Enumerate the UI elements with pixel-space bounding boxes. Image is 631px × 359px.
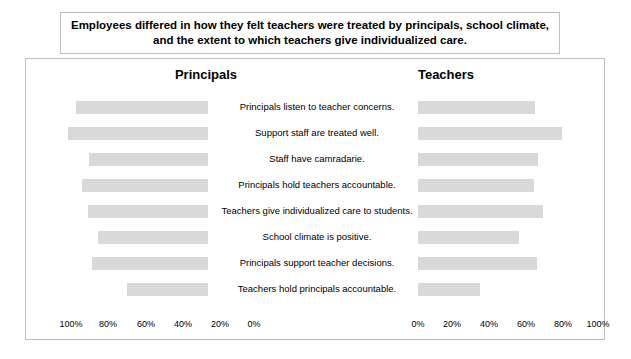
axis-right: 0% 20% 40% 60% 80% 100% bbox=[26, 319, 604, 333]
bar-right-2 bbox=[418, 153, 538, 166]
column-header-teachers: Teachers bbox=[376, 67, 516, 82]
row-label-6: Principals support teacher decisions. bbox=[221, 254, 413, 272]
table-row: Principals support teacher decisions. bbox=[26, 251, 604, 277]
row-label-3: Principals hold teachers accountable. bbox=[221, 176, 413, 194]
table-row: School climate is positive. bbox=[26, 225, 604, 251]
row-label-0: Principals listen to teacher concerns. bbox=[221, 98, 413, 116]
table-row: Support staff are treated well. bbox=[26, 121, 604, 147]
table-row: Principals listen to teacher concerns. bbox=[26, 95, 604, 121]
row-label-4: Teachers give individualized care to stu… bbox=[221, 202, 413, 220]
chart-page: Employees differed in how they felt teac… bbox=[0, 0, 631, 359]
axis-right-tick-0: 0% bbox=[411, 319, 424, 329]
chart-rows: Principals listen to teacher concerns. S… bbox=[26, 95, 604, 303]
bar-right-1 bbox=[418, 127, 562, 140]
bar-left-7 bbox=[127, 283, 208, 296]
bar-left-5 bbox=[98, 231, 208, 244]
page-title: Employees differed in how they felt teac… bbox=[69, 18, 551, 48]
bar-left-6 bbox=[92, 257, 208, 270]
bar-left-4 bbox=[88, 205, 208, 218]
bar-left-1 bbox=[68, 127, 208, 140]
bar-right-0 bbox=[418, 101, 535, 114]
bar-right-6 bbox=[418, 257, 537, 270]
row-label-7: Teachers hold principals accountable. bbox=[221, 280, 413, 298]
table-row: Teachers hold principals accountable. bbox=[26, 277, 604, 303]
axis-right-tick-5: 100% bbox=[586, 319, 609, 329]
row-label-1: Support staff are treated well. bbox=[221, 124, 413, 142]
column-header-principals: Principals bbox=[136, 67, 276, 82]
table-row: Teachers give individualized care to stu… bbox=[26, 199, 604, 225]
bar-left-2 bbox=[89, 153, 208, 166]
bar-left-3 bbox=[82, 179, 208, 192]
bar-left-0 bbox=[76, 101, 208, 114]
row-label-2: Staff have camradarie. bbox=[221, 150, 413, 168]
table-row: Principals hold teachers accountable. bbox=[26, 173, 604, 199]
axis-right-tick-4: 80% bbox=[554, 319, 572, 329]
bar-right-3 bbox=[418, 179, 534, 192]
table-row: Staff have camradarie. bbox=[26, 147, 604, 173]
bar-right-5 bbox=[418, 231, 519, 244]
chart-title-box: Employees differed in how they felt teac… bbox=[60, 12, 560, 54]
bar-right-7 bbox=[418, 283, 480, 296]
axis-right-tick-3: 60% bbox=[517, 319, 535, 329]
row-label-5: School climate is positive. bbox=[221, 228, 413, 246]
axis-right-tick-2: 40% bbox=[480, 319, 498, 329]
bar-right-4 bbox=[418, 205, 543, 218]
chart-frame: Principals Teachers Principals listen to… bbox=[25, 58, 605, 340]
axis-right-tick-1: 20% bbox=[443, 319, 461, 329]
